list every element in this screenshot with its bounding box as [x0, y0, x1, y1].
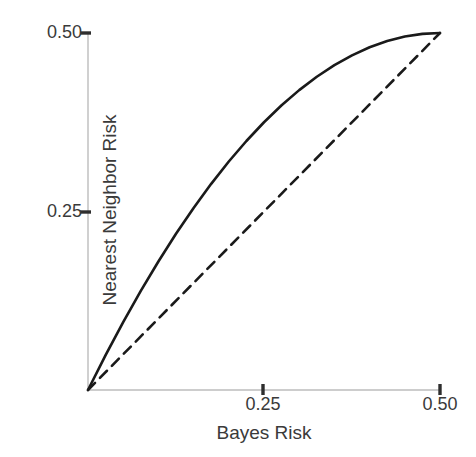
series-line-dashed [88, 33, 440, 390]
x-tick-label-025: 0.25 [245, 395, 280, 413]
y-tick-label-025: 0.25 [47, 202, 82, 220]
y-tick-label-050: 0.50 [47, 23, 82, 41]
x-tick-label-050: 0.50 [422, 395, 457, 413]
y-axis-title: Nearest Neighbor Risk [100, 114, 119, 305]
x-axis-title: Bayes Risk [216, 423, 311, 442]
data-series-layer [88, 33, 440, 390]
plot-canvas [0, 0, 476, 457]
chart-figure: 0.50 0.25 0.25 0.50 Bayes Risk Nearest N… [0, 0, 476, 457]
